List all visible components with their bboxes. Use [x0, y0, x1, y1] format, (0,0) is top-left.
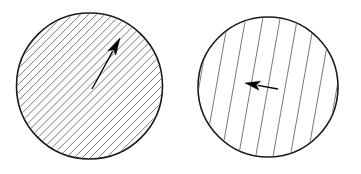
figure-background	[0, 0, 361, 174]
diagram-canvas	[0, 0, 361, 174]
figure-root	[0, 0, 361, 174]
